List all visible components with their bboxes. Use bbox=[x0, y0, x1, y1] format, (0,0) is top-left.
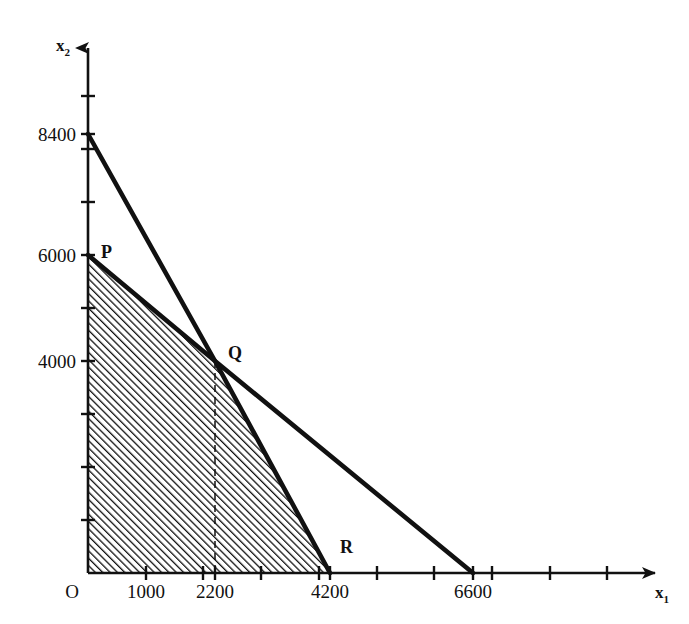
y-axis-title-sub: 2 bbox=[65, 46, 71, 58]
x-tick-label-1000: 1000 bbox=[127, 581, 165, 602]
x-tick-label-4200: 4200 bbox=[311, 581, 349, 602]
vertex-label-r: R bbox=[340, 537, 354, 557]
y-tick-label-6000: 6000 bbox=[38, 245, 76, 266]
x-tick-label-6600: 6600 bbox=[454, 581, 492, 602]
x-axis-title: x1 bbox=[655, 583, 669, 605]
x-axis-title-sub: 1 bbox=[664, 593, 670, 605]
vertex-label-p: P bbox=[101, 242, 112, 262]
y-axis-title: x2 bbox=[56, 36, 71, 58]
vertex-label-q: Q bbox=[228, 343, 242, 363]
y-tick-label-4000: 4000 bbox=[38, 351, 76, 372]
figure-canvas: 8400 6000 4000 1000 2200 4200 6600 O P Q… bbox=[0, 0, 689, 624]
feasible-region bbox=[88, 255, 330, 573]
y-tick-label-8400: 8400 bbox=[38, 124, 76, 145]
origin-label: O bbox=[65, 581, 79, 602]
x-tick-label-2200: 2200 bbox=[196, 581, 234, 602]
linear-programming-plot: 8400 6000 4000 1000 2200 4200 6600 O P Q… bbox=[0, 0, 689, 624]
